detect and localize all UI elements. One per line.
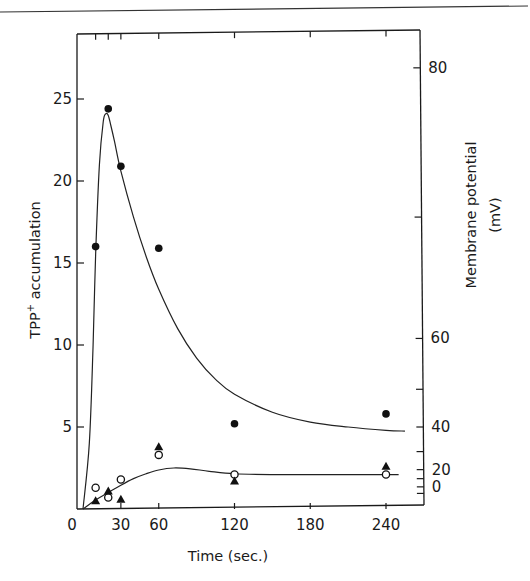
- filled-circle-marker: [155, 244, 163, 252]
- open-circle-marker: [382, 471, 389, 478]
- x-tick-label: 240: [372, 516, 401, 534]
- y-tick-label: 5: [62, 418, 72, 436]
- open-circle-marker: [105, 494, 112, 501]
- filled-circle-marker: [92, 243, 100, 251]
- y-axis-title: TPP+ accumulation: [25, 201, 43, 339]
- x-tick-label: 60: [149, 516, 168, 534]
- figure: 03060120180240 510152025 806040200 Time …: [0, 0, 530, 581]
- y2-tick-label: 80: [428, 59, 447, 77]
- y2-axis-ticks: 806040200: [413, 59, 450, 496]
- y2-tick-label: 60: [431, 329, 450, 347]
- filled-triangle-marker: [154, 442, 163, 450]
- open-circle-marker: [92, 484, 99, 491]
- y2-tick-label: 20: [432, 461, 451, 479]
- fitted-curves: [83, 113, 405, 509]
- filled-circle-marker: [104, 105, 112, 113]
- open-circle-marker: [117, 476, 124, 483]
- x-tick-label: 120: [220, 516, 249, 534]
- x-tick-label: 30: [111, 516, 130, 534]
- filled-triangle-marker: [230, 477, 239, 485]
- y2-tick-label: 0: [432, 478, 442, 496]
- filled-circle-marker: [117, 162, 125, 170]
- chart: 03060120180240 510152025 806040200 Time …: [0, 0, 530, 581]
- y2-axis-title: Membrane potential: [463, 142, 479, 289]
- page-rule: [0, 6, 528, 12]
- x-axis-title: Time (sec.): [187, 548, 268, 564]
- y-tick-label: 20: [53, 172, 72, 190]
- x-tick-label: 180: [296, 516, 325, 534]
- plot-frame: [77, 30, 424, 509]
- filled-triangle-marker: [382, 462, 391, 470]
- y-tick-label: 15: [53, 254, 72, 272]
- fitted-curve: [83, 113, 405, 509]
- y-tick-label: 25: [53, 90, 72, 108]
- fitted-curve: [83, 468, 399, 509]
- y-tick-label: 10: [53, 336, 72, 354]
- filled-circle-marker: [382, 410, 390, 418]
- filled-circle-marker: [231, 420, 239, 428]
- data-markers: [91, 105, 390, 504]
- x-tick-label: 0: [67, 516, 77, 534]
- open-circle-marker: [155, 451, 162, 458]
- y2-tick-label: 40: [431, 418, 450, 436]
- y2-axis-unit: (mV): [487, 197, 503, 232]
- filled-triangle-marker: [116, 495, 125, 503]
- y-axis-ticks: 510152025: [53, 90, 84, 436]
